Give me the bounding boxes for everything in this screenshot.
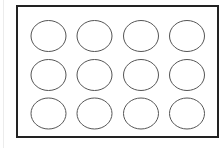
ellipse-grid-diagram — [0, 0, 224, 148]
diagram-frame — [17, 6, 218, 137]
